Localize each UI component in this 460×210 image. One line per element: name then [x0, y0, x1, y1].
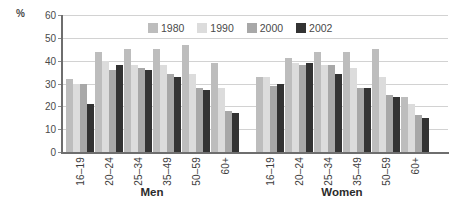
bar-cluster	[123, 15, 152, 152]
y-axis-tick-label: 40	[30, 55, 56, 66]
bar[interactable]	[167, 74, 174, 152]
bar-cluster	[342, 15, 371, 152]
bar[interactable]	[343, 52, 350, 152]
bar[interactable]	[174, 77, 181, 152]
x-axis-tick-label: 60+	[410, 157, 421, 175]
bar[interactable]	[80, 84, 87, 153]
bar[interactable]	[306, 63, 313, 152]
y-axis-tick-label: 60	[30, 10, 56, 21]
bar[interactable]	[299, 65, 306, 152]
bar[interactable]	[321, 65, 328, 152]
bar[interactable]	[189, 74, 196, 152]
x-axis-tick-label: 60+	[220, 157, 231, 175]
x-axis-tick-label: 25–34	[133, 157, 144, 186]
bar-cluster	[313, 15, 342, 152]
bar[interactable]	[256, 77, 263, 152]
bar[interactable]	[277, 84, 284, 153]
bar[interactable]	[292, 63, 299, 152]
y-axis-tick-label: 30	[30, 78, 56, 89]
bar[interactable]	[131, 65, 138, 152]
y-axis-tick-label: 10	[30, 124, 56, 135]
x-axis-tick-label: 35–49	[162, 157, 173, 186]
bar[interactable]	[66, 79, 73, 152]
bar[interactable]	[364, 88, 371, 152]
bar[interactable]	[314, 52, 321, 152]
bar[interactable]	[328, 65, 335, 152]
bar[interactable]	[153, 49, 160, 152]
group-label-men: Men	[112, 186, 192, 198]
x-axis-tick-label: 50–59	[381, 157, 392, 186]
bar-cluster	[255, 15, 284, 152]
bar[interactable]	[145, 70, 152, 152]
bar-cluster	[94, 15, 123, 152]
bar[interactable]	[386, 95, 393, 152]
x-axis-tick-label: 16–19	[265, 157, 276, 186]
x-axis-line	[61, 152, 449, 154]
group-label-women: Women	[297, 186, 387, 198]
bar[interactable]	[218, 88, 225, 152]
bar-cluster	[181, 15, 210, 152]
x-axis-tick-label: 16–19	[75, 157, 86, 186]
bar[interactable]	[87, 104, 94, 152]
bar[interactable]	[379, 77, 386, 152]
bar-cluster	[400, 15, 429, 152]
x-axis-tick-label: 20–24	[294, 157, 305, 186]
y-axis-tick-label: 0	[30, 147, 56, 158]
bar-chart: % 6050403020100 1980199020002002 16–1920…	[0, 0, 460, 210]
y-axis-tick-label: 50	[30, 32, 56, 43]
bar[interactable]	[211, 63, 218, 152]
bar-cluster	[65, 15, 94, 152]
bar[interactable]	[415, 115, 422, 152]
bar[interactable]	[203, 90, 210, 152]
bar[interactable]	[232, 113, 239, 152]
bar-cluster	[371, 15, 400, 152]
x-axis-tick-label: 50–59	[191, 157, 202, 186]
bar[interactable]	[182, 45, 189, 152]
bar[interactable]	[263, 77, 270, 152]
bar[interactable]	[138, 68, 145, 152]
bar[interactable]	[73, 84, 80, 153]
bar-cluster	[284, 15, 313, 152]
bar[interactable]	[196, 88, 203, 152]
x-axis-tick-label: 25–34	[323, 157, 334, 186]
bar[interactable]	[335, 74, 342, 152]
x-axis-tick-label: 35–49	[352, 157, 363, 186]
bar[interactable]	[102, 61, 109, 152]
bar[interactable]	[393, 97, 400, 152]
y-axis-unit-label: %	[16, 8, 25, 19]
bar[interactable]	[225, 111, 232, 152]
y-axis-tick-label: 20	[30, 101, 56, 112]
bar[interactable]	[372, 49, 379, 152]
plot-area	[62, 15, 448, 152]
bar[interactable]	[357, 88, 364, 152]
bar-cluster	[152, 15, 181, 152]
bar[interactable]	[160, 65, 167, 152]
bar-cluster	[210, 15, 239, 152]
bar[interactable]	[95, 52, 102, 152]
x-axis-tick-label: 20–24	[104, 157, 115, 186]
bar[interactable]	[401, 97, 408, 152]
bar[interactable]	[350, 68, 357, 152]
bar[interactable]	[109, 70, 116, 152]
bar[interactable]	[270, 86, 277, 152]
bar[interactable]	[422, 118, 429, 152]
bar[interactable]	[116, 65, 123, 152]
bar[interactable]	[124, 49, 131, 152]
bar[interactable]	[285, 58, 292, 152]
bar[interactable]	[408, 104, 415, 152]
